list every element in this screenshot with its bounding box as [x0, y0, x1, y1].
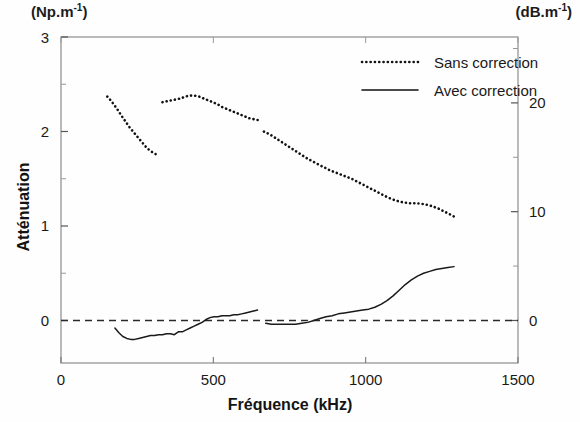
- left-axis-unit-label: (Np.m-1): [31, 2, 87, 20]
- left-axis-unit-base: (Np.m: [31, 3, 74, 20]
- series-sans-correction-segment-2: [162, 96, 258, 121]
- y-axis-tick-label-right: 10: [529, 203, 546, 220]
- series-sans-correction-segment-3: [264, 131, 454, 216]
- x-axis-tick-label: 500: [201, 371, 226, 388]
- legend-label-avec-correction: Avec correction: [434, 82, 537, 99]
- right-axis-unit-label: (dB.m-1): [516, 2, 572, 20]
- right-axis-unit-exponent: -1: [558, 2, 567, 13]
- x-axis-tick-label: 1500: [501, 371, 534, 388]
- plot-area: 012301020050010001500Sans correctionAvec…: [0, 0, 580, 422]
- legend-label-sans-correction: Sans correction: [434, 54, 538, 71]
- series-avec-correction-segment-2: [266, 267, 454, 325]
- series-avec-correction-segment-1: [115, 310, 258, 339]
- x-axis-tick-label: 1000: [349, 371, 382, 388]
- y-axis-title: Atténuation: [15, 147, 33, 267]
- x-axis-tick-label: 0: [57, 371, 65, 388]
- series-sans-correction-segment-1: [107, 97, 158, 156]
- x-axis-title: Fréquence (kHz): [0, 396, 580, 414]
- y-axis-tick-label-left: 2: [41, 123, 49, 140]
- left-axis-unit-close: ): [82, 3, 87, 20]
- y-axis-tick-label-left: 3: [41, 29, 49, 46]
- right-axis-unit-close: ): [567, 3, 572, 20]
- y-axis-tick-label-right: 0: [529, 312, 537, 329]
- y-axis-tick-label-left: 0: [41, 312, 49, 329]
- right-axis-unit-base: (dB.m: [516, 3, 559, 20]
- attenuation-chart-figure: (Np.m-1) (dB.m-1) Atténuation Fréquence …: [0, 0, 580, 422]
- y-axis-tick-label-left: 1: [41, 217, 49, 234]
